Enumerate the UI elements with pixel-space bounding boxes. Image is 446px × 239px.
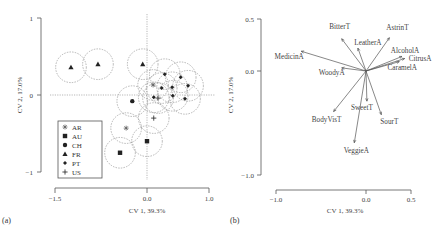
diamond-marker-pt <box>179 75 183 79</box>
vector-label-bittert: BitterT <box>329 23 350 31</box>
asterisk-icon <box>63 125 68 130</box>
vector-woodya <box>342 68 366 71</box>
panel-a-xtick-neg1-5: −1.5 <box>49 195 62 203</box>
triangle-marker-fr <box>68 65 73 70</box>
panel-b-y-label: CV 2, 17.0% <box>227 77 235 114</box>
vector-label-astrint: AstrinT <box>386 24 409 32</box>
panel-b-ytick-0: 0.0 <box>245 68 254 76</box>
vector-label-woodya: WoodyA <box>319 69 346 77</box>
square-marker-au <box>145 139 149 143</box>
triangle-marker-fr <box>140 62 145 67</box>
asterisk-marker-ar <box>124 126 129 131</box>
legend: ARAUCHFRPTUS <box>58 121 102 178</box>
square-icon <box>63 134 67 138</box>
panel-b-y-axis <box>257 19 261 175</box>
legend-item-ch: CH <box>72 142 82 150</box>
vector-label-sourt: SourT <box>380 118 399 126</box>
vector-label-medicina: MedicinA <box>275 53 305 61</box>
panel-a-ytick-neg1: −1 <box>26 169 34 177</box>
diamond-marker-pt <box>152 95 156 99</box>
circle-marker-ch <box>130 99 134 103</box>
figure: 1 0 −1 CV 2, 17.0% −1.5 0.0 1.0 CV 1, 39… <box>0 0 446 239</box>
panel-b-xtick-neg1: −1.0 <box>270 196 283 204</box>
vector-sweett <box>366 71 367 101</box>
panel-b-label: (b) <box>230 216 240 225</box>
vector-label-bodyvist: BodyVisT <box>312 116 342 124</box>
loading-vectors: BitterTLeatherAAstrinTAlcoholACitrusACar… <box>275 23 433 155</box>
panel-a-x-axis <box>55 188 209 193</box>
vector-leathera <box>358 48 366 71</box>
panel-a-xtick-0: 0.0 <box>143 195 152 203</box>
vector-label-veggiea: VeggieA <box>344 147 370 155</box>
diamond-marker-pt <box>170 85 174 89</box>
panel-a-xtick-1: 1.0 <box>205 195 214 203</box>
legend-item-au: AU <box>72 133 82 141</box>
panel-a: 1 0 −1 CV 2, 17.0% −1.5 0.0 1.0 CV 1, 39… <box>2 14 215 225</box>
legend-item-us: US <box>72 169 81 177</box>
panel-b-x-label: CV 1, 39.3% <box>327 207 364 215</box>
diamond-marker-pt <box>171 94 175 98</box>
panel-a-y-label: CV 2, 17.0% <box>16 77 24 114</box>
panel-a-ytick-1: 1 <box>30 15 34 23</box>
panel-b-xtick-0-5: 0.5 <box>407 196 416 204</box>
panel-b-ytick-neg1: −1.0 <box>241 172 254 180</box>
vector-label-leathera: LeatherA <box>354 39 382 47</box>
vector-label-citrusa: CitrusA <box>409 55 433 63</box>
legend-item-pt: PT <box>72 160 81 168</box>
legend-item-ar: AR <box>72 124 82 132</box>
square-marker-au <box>118 151 122 155</box>
panel-a-ytick-0: 0 <box>30 92 34 100</box>
circle-icon <box>63 143 67 147</box>
panel-a-x-label: CV 1, 39.3% <box>129 207 166 215</box>
panel-b-x-axis <box>276 190 411 194</box>
panel-b: 0.5 0.0 −1.0 CV 2, 17.0% −1.0 0.0 0.5 CV… <box>227 16 432 226</box>
panel-a-label: (a) <box>2 216 11 225</box>
panel-b-ytick-0-5: 0.5 <box>245 16 254 24</box>
triangle-marker-fr <box>95 62 100 67</box>
panel-b-xtick-0: 0.0 <box>362 196 371 204</box>
legend-item-fr: FR <box>72 151 81 159</box>
vector-label-caramela: CaramelA <box>388 64 418 72</box>
asterisk-marker-ar <box>151 82 156 87</box>
plus-marker-us <box>151 116 156 121</box>
vector-label-sweett: SweetT <box>351 104 374 112</box>
